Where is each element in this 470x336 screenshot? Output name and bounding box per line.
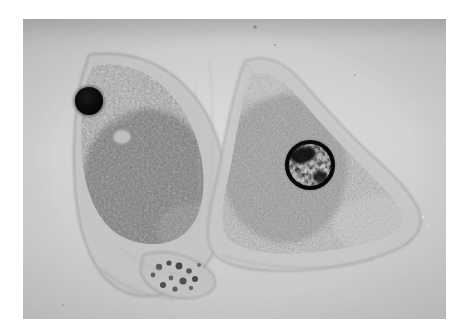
cells-layer xyxy=(23,19,446,319)
left-cell-vacuole xyxy=(112,129,132,145)
page-canvas xyxy=(0,0,470,336)
left-cell-nucleus xyxy=(74,86,105,117)
figure-caption xyxy=(23,322,446,334)
right-cell xyxy=(203,49,437,284)
photomicrograph-plate xyxy=(23,19,446,319)
